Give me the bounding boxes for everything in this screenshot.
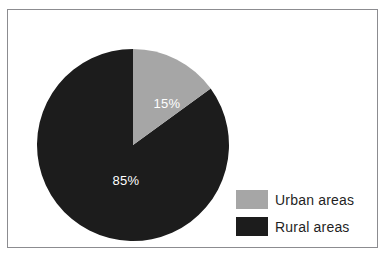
legend-swatch-urban-icon (236, 190, 268, 209)
pie-plot-area: 15% 85% (30, 32, 230, 248)
legend-label-urban-areas: Urban areas (275, 192, 354, 208)
legend-label-rural-areas: Rural areas (275, 219, 350, 235)
chart-legend: Urban areas Rural areas (236, 186, 378, 240)
legend-item-rural-areas[interactable]: Rural areas (236, 213, 378, 240)
pie-slice-label-rural: 85% (113, 173, 140, 188)
chart-frame-border: 15% 85% Urban areas Rural areas (7, 9, 378, 248)
pie-slice-label-urban: 15% (154, 96, 181, 111)
legend-item-urban-areas[interactable]: Urban areas (236, 186, 378, 213)
pie-svg: 15% 85% (30, 32, 230, 248)
legend-swatch-rural-icon (236, 217, 268, 236)
pie-chart-figure: 15% 85% Urban areas Rural areas (0, 0, 388, 266)
